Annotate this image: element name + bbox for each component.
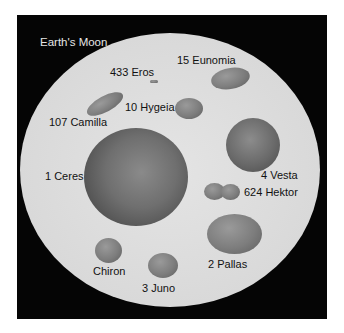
juno-body bbox=[148, 253, 178, 278]
eunomia-label: 15 Eunomia bbox=[177, 54, 236, 66]
hektor-label: 624 Hektor bbox=[244, 186, 298, 198]
eros-label: 433 Eros bbox=[110, 66, 154, 78]
hygeia-label: 10 Hygeia bbox=[125, 101, 175, 113]
camilla-label: 107 Camilla bbox=[49, 116, 107, 128]
pallas-label: 2 Pallas bbox=[208, 258, 247, 270]
ceres-label: 1 Ceres bbox=[45, 170, 84, 182]
hygeia-body bbox=[175, 98, 203, 119]
vesta-label: 4 Vesta bbox=[261, 169, 298, 181]
chiron-body bbox=[95, 238, 122, 263]
juno-label: 3 Juno bbox=[142, 282, 175, 294]
earths-moon-label: Earth's Moon bbox=[40, 36, 107, 48]
chiron-label: Chiron bbox=[93, 265, 125, 277]
pallas-body bbox=[207, 214, 262, 254]
ceres-body bbox=[84, 128, 188, 226]
hektor-lobe-right bbox=[221, 184, 240, 200]
eros-body bbox=[150, 80, 158, 83]
vesta-body bbox=[226, 118, 280, 172]
